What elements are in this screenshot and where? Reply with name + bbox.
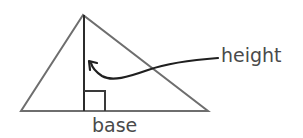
- height-pointer-arrow: [91, 58, 218, 79]
- right-angle-marker: [84, 91, 105, 111]
- height-label: height: [221, 46, 282, 65]
- triangle-figure: [0, 0, 303, 138]
- triangle-diagram: height base: [0, 0, 303, 138]
- base-label: base: [92, 116, 137, 135]
